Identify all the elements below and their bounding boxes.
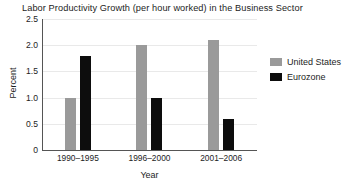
- bar-united-states: [65, 98, 76, 150]
- x-axis-line: [42, 150, 257, 151]
- bar-eurozone: [223, 119, 234, 150]
- chart-legend: United StatesEurozone: [270, 54, 341, 84]
- legend-label: Eurozone: [287, 72, 326, 82]
- x-axis-label: Year: [42, 170, 257, 180]
- plot-area: 2.52.01.51.00.50 1990–19951996–20002001–…: [42, 19, 257, 151]
- bar-group: [114, 19, 186, 150]
- bar-eurozone: [80, 56, 91, 150]
- bar-united-states: [208, 40, 219, 150]
- y-tick-label: 2.5: [26, 14, 38, 24]
- y-tick-label: 1.0: [26, 93, 38, 103]
- legend-swatch-icon: [270, 73, 282, 81]
- bar-eurozone: [151, 98, 162, 150]
- legend-swatch-icon: [270, 58, 282, 66]
- bar-group: [185, 19, 257, 150]
- chart-title: Labor Productivity Growth (per hour work…: [22, 3, 303, 14]
- y-axis-label: Percent: [8, 53, 18, 113]
- y-tick-label: 1.5: [26, 66, 38, 76]
- bar-group: [42, 19, 114, 150]
- legend-label: United States: [287, 57, 341, 67]
- legend-item-united-states[interactable]: United States: [270, 54, 341, 69]
- legend-item-eurozone[interactable]: Eurozone: [270, 69, 341, 84]
- x-tick-label: 2001–2006: [176, 153, 266, 163]
- chart-figure: Labor Productivity Growth (per hour work…: [0, 0, 360, 194]
- y-tick-label: 0.5: [26, 119, 38, 129]
- y-tick-label: 2.0: [26, 40, 38, 50]
- bar-united-states: [136, 45, 147, 150]
